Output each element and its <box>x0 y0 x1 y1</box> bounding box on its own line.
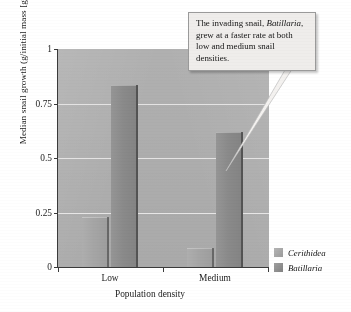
bar-face <box>82 217 109 267</box>
x-tick-mid <box>163 267 164 272</box>
legend-label-batillaria: Batillaria <box>288 263 322 273</box>
y-axis-title: Median snail growth (g/initial mass [g]) <box>18 0 28 176</box>
legend-swatch-batillaria-icon <box>274 263 283 272</box>
y-tick-label-1: 1 <box>47 44 52 54</box>
y-tick-0.5 <box>54 158 59 159</box>
legend-swatch-cerithidea-icon <box>274 248 283 257</box>
y-tick-label-0: 0 <box>47 262 52 272</box>
bar-batillaria-medium <box>216 132 243 267</box>
y-tick-1 <box>54 49 59 50</box>
bar-face <box>216 132 243 267</box>
legend-item-cerithidea: Cerithidea <box>274 247 326 258</box>
x-tick-right-edge <box>268 267 269 272</box>
x-category-label-medium: Medium <box>199 273 231 283</box>
bar-batillaria-low <box>111 85 138 267</box>
legend-label-cerithidea: Cerithidea <box>288 248 326 258</box>
x-axis-title: Population density <box>0 289 300 299</box>
legend-item-batillaria: Batillaria <box>274 262 326 273</box>
bar-face <box>111 85 138 267</box>
callout-text-line1: The invading snail, <box>196 18 264 28</box>
plot-area: 1 0.75 0.5 0.25 0 Low Medium <box>57 49 269 268</box>
figure-bar-chart: Median snail growth (g/initial mass [g])… <box>0 0 351 312</box>
annotation-callout: The invading snail, Batillaria, grew at … <box>188 12 316 71</box>
y-tick-0.25 <box>54 213 59 214</box>
x-category-label-low: Low <box>101 273 118 283</box>
bar-cerithidea-medium <box>187 248 214 267</box>
y-tick-label-0.75: 0.75 <box>36 99 52 109</box>
y-tick-0.75 <box>54 104 59 105</box>
legend: Cerithidea Batillaria <box>274 247 326 277</box>
bar-cerithidea-low <box>82 217 109 267</box>
gridline-0.75 <box>58 104 269 105</box>
y-tick-label-0.5: 0.5 <box>40 153 52 163</box>
x-tick-left-edge <box>58 267 59 272</box>
callout-species-italic: Batillaria <box>267 18 302 28</box>
bar-face <box>187 248 214 267</box>
y-tick-label-0.25: 0.25 <box>36 208 52 218</box>
